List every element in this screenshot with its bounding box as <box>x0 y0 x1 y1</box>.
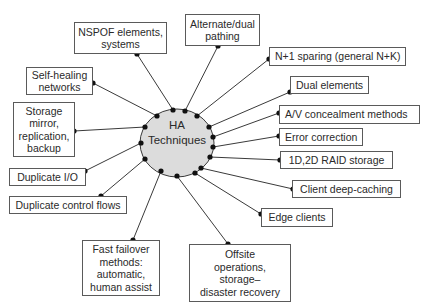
node-box-raid: 1D,2D RAID storage <box>280 151 393 169</box>
hub-dot-alternate <box>182 108 187 113</box>
hub-dot-duplicate-control <box>142 156 147 161</box>
connector-self-healing <box>93 83 157 116</box>
hub-dot-client-caching <box>198 165 203 170</box>
connector-offsite <box>177 176 228 244</box>
node-label: N+1 sparing (general N+K) <box>275 50 400 63</box>
node-label: Storage mirror, replication, backup <box>19 105 70 155</box>
node-box-dual-elements: Dual elements <box>290 76 369 94</box>
connector-nspof <box>137 54 173 110</box>
node-label: Duplicate control flows <box>15 199 120 212</box>
connector-error-correction <box>213 136 279 147</box>
node-box-storage: Storage mirror, replication, backup <box>13 102 75 157</box>
node-box-duplicate-control: Duplicate control flows <box>9 196 127 214</box>
node-box-av-concealment: A/V concealment methods <box>279 105 420 124</box>
node-box-fast-failover: Fast failover methods: automatic, human … <box>82 240 160 296</box>
connector-n-plus-1 <box>197 59 269 116</box>
node-box-n-plus-1: N+1 sparing (general N+K) <box>269 47 406 66</box>
node-label: Error correction <box>285 131 357 144</box>
node-label: Fast failover methods: automatic, human … <box>90 243 152 293</box>
node-box-nspof: NSPOF elements, systems <box>74 22 167 54</box>
node-box-error-correction: Error correction <box>279 128 363 146</box>
node-label: Client deep-caching <box>300 183 393 196</box>
node-box-offsite: Offsite operations, storage– disaster re… <box>189 244 291 302</box>
connector-alternate <box>185 46 218 111</box>
hub-dot-edge-clients <box>192 170 197 175</box>
hub-dot-offsite <box>174 173 179 178</box>
node-label: Offsite operations, storage– disaster re… <box>200 248 280 298</box>
node-box-duplicate-io: Duplicate I/O <box>9 168 86 186</box>
ha-techniques-diagram: NSPOF elements, systemsAlternate/dual pa… <box>0 0 432 307</box>
node-box-edge-clients: Edge clients <box>261 208 333 227</box>
connector-raid <box>210 157 280 160</box>
node-box-self-healing: Self-healing networks <box>26 67 93 95</box>
node-box-client-caching: Client deep-caching <box>292 180 401 198</box>
connector-av-concealment <box>213 113 279 137</box>
connector-duplicate-io <box>85 143 141 171</box>
node-label: Duplicate I/O <box>17 171 78 184</box>
node-box-alternate: Alternate/dual pathing <box>185 14 260 46</box>
hub-label: HA Techniques <box>141 118 213 148</box>
hub-dot-raid <box>207 154 212 159</box>
connector-fast-failover <box>133 171 161 240</box>
node-label: Self-healing networks <box>32 69 87 94</box>
hub-dot-nspof <box>170 107 175 112</box>
node-label: 1D,2D RAID storage <box>289 154 385 167</box>
node-label: Edge clients <box>268 211 325 224</box>
node-label: Alternate/dual pathing <box>190 18 255 43</box>
node-label: A/V concealment methods <box>285 108 408 121</box>
connector-duplicate-control <box>101 159 145 196</box>
node-label: NSPOF elements, systems <box>78 26 163 51</box>
connector-storage <box>74 127 145 131</box>
node-label: Dual elements <box>296 79 363 92</box>
hub-dot-fast-failover <box>158 168 163 173</box>
